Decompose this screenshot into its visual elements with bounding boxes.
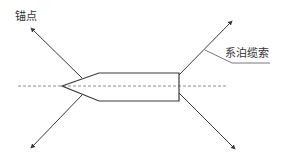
diagram-canvas: [0, 0, 286, 163]
mooring-line-front-lower: [31, 95, 82, 148]
ship-hull: [62, 73, 179, 101]
mooring-line-rear-lower: [179, 93, 235, 149]
anchor-point-label: 锚点: [15, 11, 37, 23]
mooring-line-front-upper: [31, 28, 82, 78]
mooring-cable-label: 系泊缆索: [225, 48, 269, 60]
